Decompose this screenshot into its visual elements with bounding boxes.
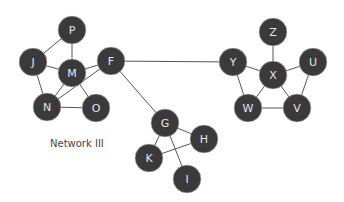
node-j: J bbox=[19, 48, 47, 76]
node-label: P bbox=[69, 24, 76, 37]
node-label: Y bbox=[229, 56, 237, 69]
node-label: H bbox=[200, 133, 208, 146]
node-label: J bbox=[30, 56, 34, 69]
node-w: W bbox=[234, 94, 262, 122]
node-label: V bbox=[293, 102, 301, 115]
network-diagram: PJMFNOGHKIZYXUWV bbox=[0, 0, 344, 202]
node-x: X bbox=[259, 61, 287, 89]
node-g: G bbox=[151, 109, 179, 137]
node-label: K bbox=[145, 152, 153, 165]
node-z: Z bbox=[259, 18, 287, 46]
nodes-layer: PJMFNOGHKIZYXUWV bbox=[19, 16, 327, 193]
node-k: K bbox=[135, 144, 163, 172]
edge-f-y bbox=[111, 61, 233, 62]
node-f: F bbox=[97, 47, 125, 75]
node-label: F bbox=[108, 55, 114, 68]
node-p: P bbox=[58, 16, 86, 44]
node-label: G bbox=[161, 117, 170, 130]
node-label: Z bbox=[269, 26, 277, 39]
node-label: I bbox=[185, 173, 188, 186]
node-u: U bbox=[299, 48, 327, 76]
node-n: N bbox=[33, 93, 61, 121]
node-y: Y bbox=[219, 48, 247, 76]
edges-layer bbox=[33, 30, 313, 179]
node-label: M bbox=[67, 67, 77, 80]
node-v: V bbox=[283, 94, 311, 122]
diagram-caption: Network III bbox=[50, 138, 104, 149]
node-label: X bbox=[269, 69, 277, 82]
node-h: H bbox=[190, 125, 218, 153]
node-label: U bbox=[309, 56, 317, 69]
node-label: N bbox=[43, 101, 51, 114]
node-label: W bbox=[243, 102, 254, 115]
node-o: O bbox=[82, 94, 110, 122]
node-label: O bbox=[92, 102, 101, 115]
node-m: M bbox=[58, 59, 86, 87]
node-i: I bbox=[173, 165, 201, 193]
